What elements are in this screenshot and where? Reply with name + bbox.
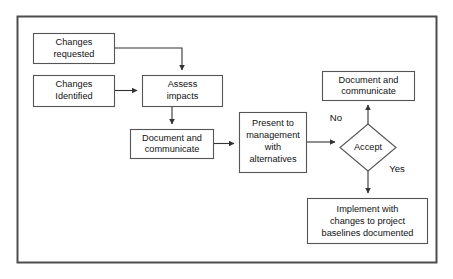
- node-document-and-communicate-1-line-2: communicate: [145, 144, 200, 154]
- node-present-to-management-line-2: management: [246, 130, 300, 140]
- node-present-to-management-line-3: with: [264, 142, 281, 152]
- node-document-and-communicate-2-line-1: Document and: [339, 75, 399, 85]
- edge-label-no: No: [330, 112, 342, 123]
- node-assess-impacts-line-2: impacts: [167, 91, 199, 101]
- node-document-and-communicate-1-line-1: Document and: [142, 133, 202, 143]
- node-present-to-management: Present to management with alternatives: [240, 113, 307, 173]
- flowchart-diagram: Changes requested Changes Identified Ass…: [0, 0, 453, 279]
- node-present-to-management-line-4: alternatives: [250, 154, 297, 164]
- node-changes-identified: Changes Identified: [34, 76, 115, 107]
- node-document-and-communicate-2: Document and communicate: [323, 72, 415, 101]
- diagram-canvas: Changes requested Changes Identified Ass…: [0, 0, 453, 279]
- node-implement-with-changes-line-2: changes to project: [330, 216, 406, 226]
- edge-label-yes: Yes: [389, 163, 405, 174]
- node-implement-with-changes: Implement with changes to project baseli…: [308, 199, 428, 244]
- node-changes-requested-line-2: requested: [54, 49, 95, 59]
- node-implement-with-changes-line-1: Implement with: [337, 204, 399, 214]
- node-assess-impacts: Assess impacts: [143, 76, 223, 107]
- node-accept-decision-label: Accept: [354, 142, 383, 152]
- node-changes-identified-line-2: Identified: [55, 91, 92, 101]
- node-implement-with-changes-line-3: baselines documented: [322, 228, 414, 238]
- node-document-and-communicate-1: Document and communicate: [131, 130, 214, 159]
- node-changes-requested: Changes requested: [34, 34, 115, 64]
- node-assess-impacts-line-1: Assess: [168, 79, 198, 89]
- node-document-and-communicate-2-line-2: communicate: [341, 86, 396, 96]
- node-present-to-management-line-1: Present to: [252, 118, 294, 128]
- node-changes-identified-line-1: Changes: [56, 79, 93, 89]
- node-changes-requested-line-1: Changes: [56, 37, 93, 47]
